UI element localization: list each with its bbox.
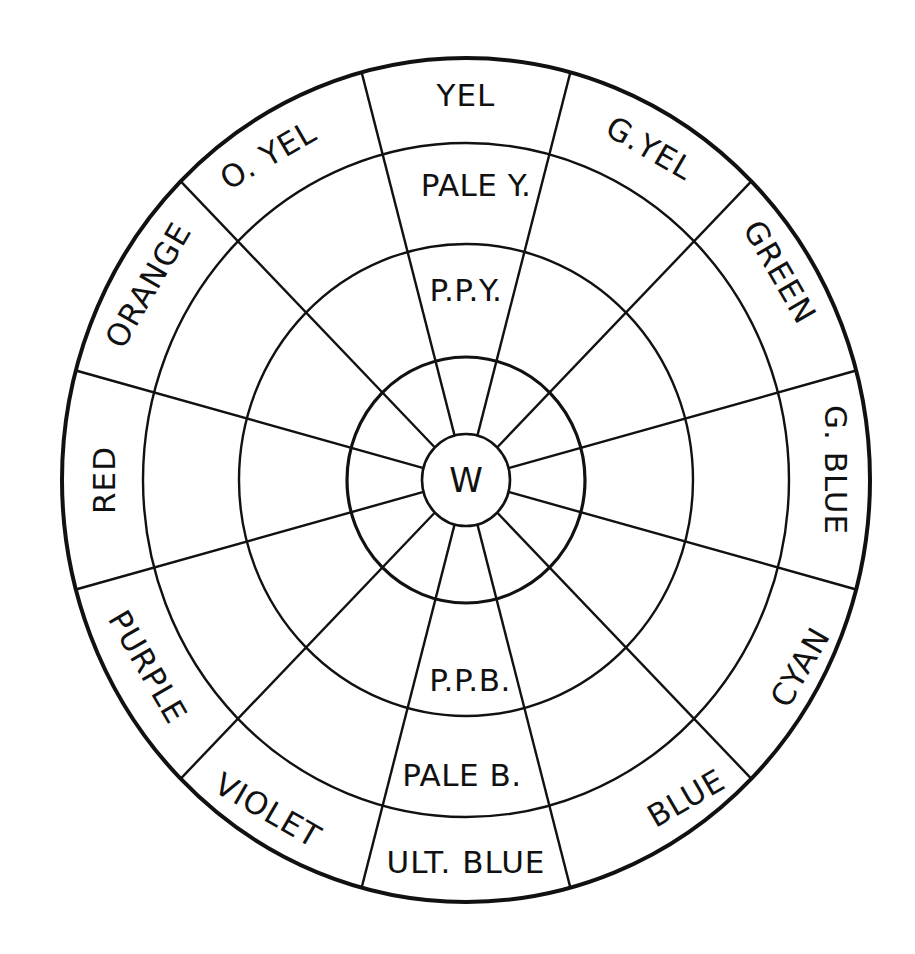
spoke [497, 513, 752, 780]
spoke [180, 181, 435, 448]
label-ppb: P.P.B. [429, 662, 511, 698]
label-cyan: CYAN [763, 621, 837, 714]
label-purple: PURPLE [101, 604, 194, 730]
spoke [509, 371, 857, 469]
label-red: RED [86, 446, 122, 514]
label-violet: VIOLET [209, 765, 328, 854]
label-yel: YEL [436, 77, 496, 113]
label-g-yel: G.YEL [600, 109, 700, 188]
spoke [497, 181, 752, 448]
center-label-white: W [449, 460, 483, 500]
spoke [76, 371, 424, 469]
label-ult-blue: ULT. BLUE [387, 844, 546, 880]
spoke [361, 524, 454, 888]
label-orange: ORANGE [98, 216, 199, 354]
label-green: GREEN [736, 214, 824, 330]
label-blue: BLUE [641, 762, 731, 835]
label-pale-blue: PALE B. [402, 757, 521, 793]
spoke [361, 71, 454, 435]
color-wheel-diagram: W YEL G.YEL GREEN G. BLUE CYAN BLUE ULT.… [0, 0, 915, 954]
label-g-blue: G. BLUE [818, 405, 854, 535]
label-ppy: P.P.Y. [430, 272, 503, 308]
label-pale-yellow: PALE Y. [421, 167, 532, 203]
spoke [180, 513, 435, 780]
spoke [477, 524, 570, 888]
spoke [477, 71, 570, 435]
spoke [509, 492, 857, 590]
spoke [76, 492, 424, 590]
label-o-yel: O. YEL [214, 113, 323, 197]
